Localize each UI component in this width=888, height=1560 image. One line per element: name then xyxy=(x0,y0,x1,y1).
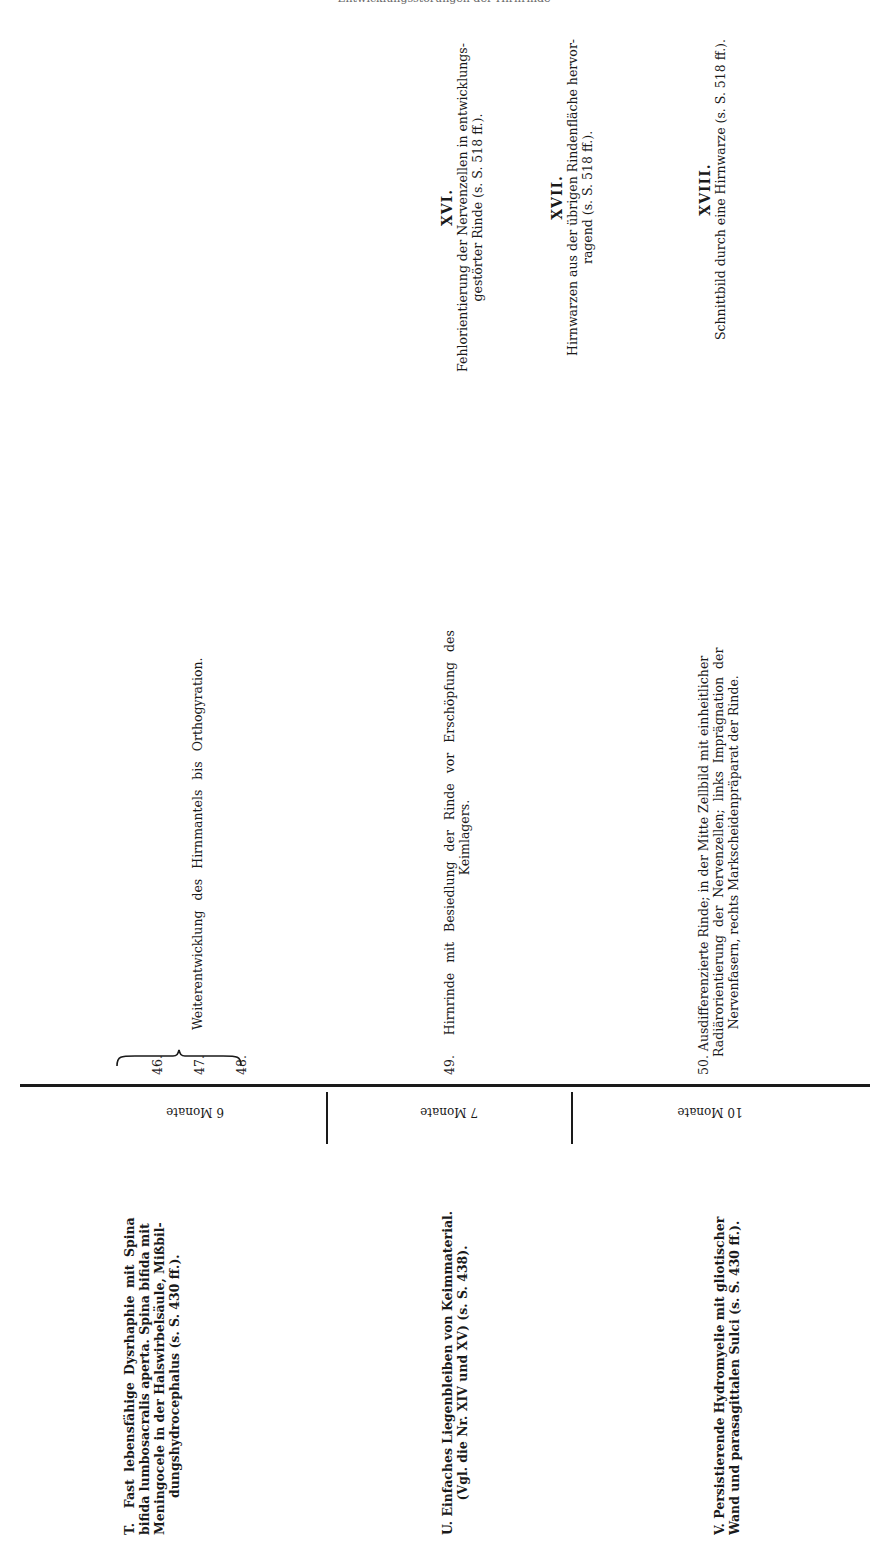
entry-text: Weiterentwicklung des Hirnmantels bis Or… xyxy=(190,657,205,1030)
plate-xvi: XVI. Fehlorientierung der Nervenzellen i… xyxy=(440,43,485,372)
entry-50-line2: Radiärorientierung der Nervenzellen; lin… xyxy=(711,648,726,1075)
case-v: V. Persistierende Hydromyelie mit glioti… xyxy=(712,1217,742,1535)
plate-caption-line1: Hirnwarzen aus der übrigen Rindenfläche … xyxy=(565,39,580,356)
entry-number: 46. xyxy=(150,1055,165,1075)
case-t: T. Fast lebensfähige Dysrhaphie mit Spin… xyxy=(122,1217,182,1535)
age-separator-2 xyxy=(571,1092,573,1144)
entry-number: 49. xyxy=(442,1055,457,1075)
case-t-line1: T. Fast lebensfähige Dysrhaphie mit Spin… xyxy=(122,1217,137,1535)
entry-49: 49. Hirnrinde mit Besiedlung der Rinde v… xyxy=(442,630,472,1075)
case-letter: U. xyxy=(440,1521,455,1535)
entry-text: Ausdifferenzierte Rinde; in der Mitte Ze… xyxy=(696,656,711,1051)
entry-number: 47. xyxy=(192,1055,207,1075)
case-v-line1: V. Persistierende Hydromyelie mit glioti… xyxy=(712,1217,727,1535)
entry-47-text: Weiterentwicklung des Hirnmantels bis Or… xyxy=(190,657,205,1030)
case-text: Fast lebensfähige Dysrhaphie mit Spina xyxy=(122,1217,137,1508)
age-label-10-monate: 10 Monate xyxy=(650,1105,770,1119)
entry-number: 50. xyxy=(696,1055,711,1075)
plate-caption-line2: gestörter Rinde (s. S. 518 ff.). xyxy=(470,43,485,372)
brace-46-48-icon xyxy=(115,1048,245,1068)
age-label-7-monate: 7 Monate xyxy=(394,1105,504,1119)
entry-50: 50. Ausdifferenzierte Rinde; in der Mitt… xyxy=(696,648,741,1075)
case-letter: V. xyxy=(712,1523,727,1535)
case-text: Einfaches Liegenbleiben von Keimmaterial… xyxy=(440,1211,455,1517)
running-header-cut: Entwicklungsstörungen der Hirnrinde xyxy=(0,0,888,4)
case-letter: T. xyxy=(122,1523,137,1535)
age-separator-1 xyxy=(326,1092,328,1144)
entry-number: 48. xyxy=(234,1055,249,1075)
plate-numeral: XVII. xyxy=(550,39,565,356)
age-label-6-monate: 6 Monate xyxy=(140,1105,250,1119)
main-divider-rule xyxy=(20,1084,870,1087)
entry-text: Hirnrinde mit Besiedlung der Rinde vor E… xyxy=(442,630,457,1035)
entry-46-number: 46. xyxy=(150,1055,165,1075)
entry-50-line3: Nervenfasern, rechts Markscheidenpräpara… xyxy=(726,648,741,1075)
plate-xviii: XVIII. Schnittbild durch eine Hirnwarze … xyxy=(698,39,728,340)
plate-caption-line1: Fehlorientierung der Nervenzellen in ent… xyxy=(455,43,470,372)
plate-xvii: XVII. Hirnwarzen aus der übrigen Rindenf… xyxy=(550,39,595,356)
entry-49-line2: Keimlagers. xyxy=(457,630,472,1075)
entry-50-line1: 50. Ausdifferenzierte Rinde; in der Mitt… xyxy=(696,648,711,1075)
case-v-line2: Wand und parasagittalen Sulci (s. S. 430… xyxy=(727,1217,742,1535)
case-text: Persistierende Hydromyelie mit gliotisch… xyxy=(712,1217,727,1519)
case-t-line3: Meningocele in der Halswirbelsäule, Mißb… xyxy=(152,1217,167,1535)
plate-caption-line2: ragend (s. S. 518 ff.). xyxy=(580,39,595,356)
plate-numeral: XVIII. xyxy=(698,39,713,340)
case-u: U. Einfaches Liegenbleiben von Keimmater… xyxy=(440,1211,470,1535)
case-t-line2: bifida lumbosacralis aperta. Spina bifid… xyxy=(137,1217,152,1535)
case-u-line1: U. Einfaches Liegenbleiben von Keimmater… xyxy=(440,1211,455,1535)
entry-48-number: 48. xyxy=(234,1055,249,1075)
case-u-line2: (Vgl. die Nr. XIV und XV) (s. S. 438). xyxy=(455,1211,470,1535)
entry-47-number: 47. xyxy=(192,1055,207,1075)
entry-49-line1: 49. Hirnrinde mit Besiedlung der Rinde v… xyxy=(442,630,457,1075)
case-t-line4: dungshydrocephalus (s. S. 430 ff.). xyxy=(167,1217,182,1535)
plate-caption-line1: Schnittbild durch eine Hirnwarze (s. S. … xyxy=(713,39,728,340)
plate-numeral: XVI. xyxy=(440,43,455,372)
